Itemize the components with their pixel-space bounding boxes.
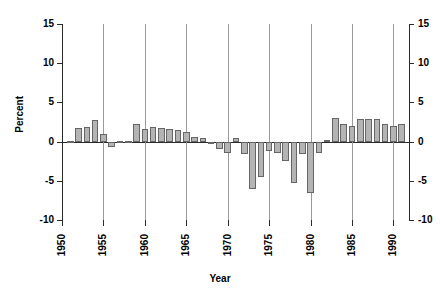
x-tick-1990	[393, 220, 394, 226]
bar-1990	[390, 126, 397, 142]
bar-1970	[224, 142, 231, 154]
y-tick-label-r-0: 0	[418, 137, 424, 147]
y-tick-label-r-10: 10	[418, 58, 429, 68]
bar-1985	[349, 126, 356, 142]
bar-1960	[142, 129, 149, 142]
y-tick-label-l-0: 0	[48, 137, 54, 147]
bar-1979	[299, 142, 306, 155]
y-tick-label-l-10: 10	[43, 58, 54, 68]
bar-1968	[208, 142, 215, 144]
plot-area: 151510105500-5-5-10-10 19501955196019651…	[62, 24, 410, 220]
bar-1991	[398, 124, 405, 142]
bar-1986	[357, 119, 364, 142]
x-tick-label-1990: 1990	[388, 234, 398, 256]
y-axis-label: Percent	[14, 96, 25, 133]
bar-1962	[158, 128, 165, 141]
bar-1966	[191, 137, 198, 142]
x-axis-label: Year	[0, 273, 440, 284]
bar-1957	[117, 141, 124, 143]
bar-1980	[307, 142, 314, 193]
x-tick-label-1980: 1980	[306, 234, 316, 256]
bar-1987	[365, 119, 372, 142]
bar-1963	[166, 129, 173, 142]
x-tick-label-1985: 1985	[347, 234, 357, 256]
y-tick-label-r-15: 15	[418, 19, 429, 29]
bar-series	[62, 24, 410, 220]
bar-1972	[241, 142, 248, 155]
bar-1969	[216, 142, 223, 149]
x-tick-1985	[352, 220, 353, 226]
bar-1958	[125, 141, 132, 143]
bar-1978	[291, 142, 298, 184]
bar-1982	[324, 140, 331, 142]
y-tick-label-r--10: -10	[418, 215, 432, 225]
x-tick-label-1960: 1960	[140, 234, 150, 256]
bar-1975	[266, 142, 273, 151]
bar-1976	[274, 142, 281, 154]
bar-1953	[84, 127, 91, 141]
bar-1983	[332, 118, 339, 142]
x-tick-1970	[228, 220, 229, 226]
bar-1955	[100, 134, 107, 142]
bar-1989	[382, 124, 389, 142]
y-tick-r--10	[409, 220, 414, 221]
y-tick-label-r--5: -5	[418, 176, 427, 186]
bar-1984	[340, 124, 347, 141]
bar-1964	[175, 130, 182, 142]
bar-1971	[233, 138, 240, 142]
bar-1988	[374, 119, 381, 142]
x-tick-1965	[186, 220, 187, 226]
y-tick-label-l--5: -5	[45, 176, 54, 186]
x-tick-label-1955: 1955	[98, 234, 108, 256]
bar-1956	[108, 142, 115, 147]
y-tick-label-l-15: 15	[43, 19, 54, 29]
bar-1973	[249, 142, 256, 189]
bar-1952	[75, 128, 82, 141]
bar-1977	[282, 142, 289, 162]
x-tick-1950	[62, 220, 63, 226]
x-tick-1960	[145, 220, 146, 226]
bar-1959	[133, 124, 140, 141]
bar-1981	[316, 142, 323, 153]
bar-1965	[183, 132, 190, 141]
x-tick-1980	[311, 220, 312, 226]
y-tick-label-r-5: 5	[418, 97, 424, 107]
x-tick-label-1965: 1965	[181, 234, 191, 256]
y-tick-label-l--10: -10	[40, 215, 54, 225]
bar-1974	[258, 142, 265, 177]
x-tick-1975	[269, 220, 270, 226]
x-tick-label-1975: 1975	[264, 234, 274, 256]
chart-figure: Percent Year 151510105500-5-5-10-10 1950…	[0, 0, 440, 298]
x-tick-1955	[103, 220, 104, 226]
x-tick-label-1950: 1950	[57, 234, 67, 256]
y-tick-label-l-5: 5	[48, 97, 54, 107]
bar-1954	[92, 120, 99, 142]
bar-1967	[200, 138, 207, 142]
bar-1961	[150, 127, 157, 142]
bar-1951	[67, 141, 74, 143]
x-tick-label-1970: 1970	[223, 234, 233, 256]
